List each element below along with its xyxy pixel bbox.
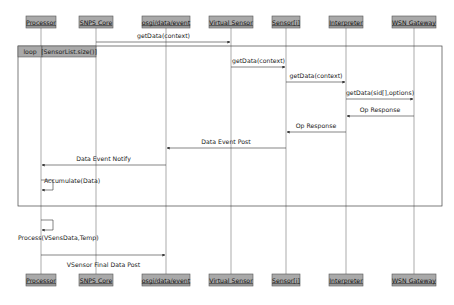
message-label: getData(context) (289, 72, 342, 80)
message-6: Op Response (287, 122, 346, 132)
message-label: Data Event Notify (76, 155, 131, 163)
message-arrow (41, 220, 53, 230)
participant-label: osgi/data/event (142, 19, 191, 27)
participant-label: WSN Gateway (392, 19, 436, 27)
participant-osgi-top[interactable]: osgi/data/event (142, 16, 191, 28)
participant-snps-top[interactable]: SNPS Core (79, 16, 113, 28)
message-9: Accumulate(Data) (41, 177, 100, 190)
message-5: Op Response (347, 106, 414, 116)
participant-label: SNPS Core (80, 277, 113, 284)
message-3: getData(context) (286, 72, 345, 82)
participant-sensor-bottom[interactable]: Sensor[i] (272, 274, 300, 286)
message-label: Accumulate(Data) (44, 177, 100, 184)
participant-vsensor-bottom[interactable]: Virtual Sensor (209, 274, 253, 286)
participant-label: osgi/data/event (142, 277, 191, 285)
message-1: getData(context) (96, 32, 230, 42)
participant-label: Virtual Sensor (209, 277, 253, 284)
participant-interp-bottom[interactable]: Interpreter (329, 274, 363, 286)
message-7: Data Event Post (167, 138, 286, 148)
message-label: Process(VSensData,Temp) (18, 234, 99, 242)
participant-label: Interpreter (329, 19, 363, 27)
participant-interp-top[interactable]: Interpreter (329, 16, 363, 28)
participant-label: Sensor[i] (272, 277, 300, 284)
sequence-diagram: loop[SensorList.size()] getData(context)… (0, 0, 454, 305)
participant-wsn-bottom[interactable]: WSN Gateway (392, 274, 436, 286)
participant-snps-bottom[interactable]: SNPS Core (79, 274, 113, 286)
message-label: Op Response (360, 106, 401, 114)
message-10: Process(VSensData,Temp) (18, 220, 99, 242)
loop-keyword: loop (23, 48, 36, 56)
message-label: getData(context) (137, 32, 190, 40)
participant-vsensor-top[interactable]: Virtual Sensor (209, 16, 253, 28)
participant-label: Processor (26, 277, 56, 284)
message-4: getData(sid[],options) (346, 89, 414, 99)
participant-label: SNPS Core (80, 19, 113, 26)
participant-wsn-top[interactable]: WSN Gateway (392, 16, 436, 28)
message-11: VSensor Final Data Post (41, 255, 165, 268)
message-8: Data Event Notify (42, 155, 166, 165)
participant-label: Interpreter (329, 277, 363, 285)
participant-sensor-top[interactable]: Sensor[i] (272, 16, 300, 28)
message-2: getData(context) (231, 57, 285, 67)
message-label: getData(context) (232, 57, 285, 65)
participant-processor-top[interactable]: Processor (26, 16, 56, 28)
message-label: Data Event Post (201, 138, 251, 145)
participant-processor-bottom[interactable]: Processor (26, 274, 56, 286)
message-label: getData(sid[],options) (346, 89, 414, 97)
loop-guard: [SensorList.size()] (41, 48, 97, 55)
participant-label: WSN Gateway (392, 277, 436, 285)
message-label: VSensor Final Data Post (67, 261, 141, 268)
participant-osgi-bottom[interactable]: osgi/data/event (142, 274, 191, 286)
participant-label: Virtual Sensor (209, 19, 253, 26)
participant-label: Processor (26, 19, 56, 26)
message-label: Op Response (296, 122, 337, 130)
participant-label: Sensor[i] (272, 19, 300, 26)
